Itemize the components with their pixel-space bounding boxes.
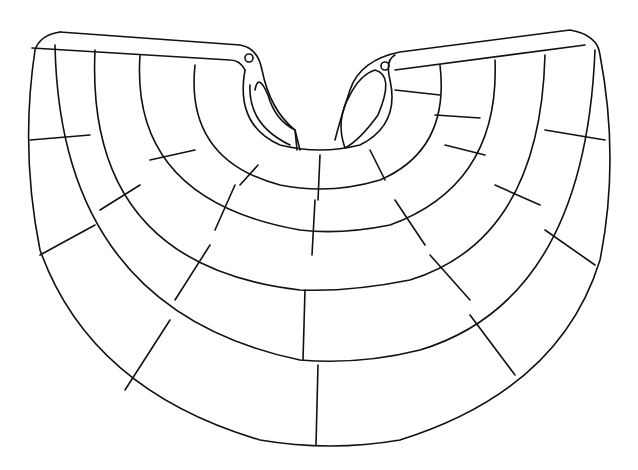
divider <box>40 225 95 255</box>
divider <box>303 290 305 360</box>
divider <box>175 245 210 300</box>
collar-svg <box>0 0 638 470</box>
divider <box>312 200 315 255</box>
terminal-hole-left <box>245 54 253 62</box>
collar-drawing <box>0 0 638 470</box>
divider <box>215 185 235 230</box>
divider <box>545 230 595 265</box>
divider <box>240 165 258 185</box>
divider <box>545 130 605 140</box>
divider <box>395 90 440 95</box>
divider <box>316 365 318 445</box>
divider <box>318 155 320 200</box>
row-4 <box>55 45 595 361</box>
divider <box>150 150 195 160</box>
divider <box>125 320 170 390</box>
neck-inner <box>250 85 290 145</box>
neck-curve <box>243 55 395 150</box>
hook-right <box>341 70 386 148</box>
hook-left <box>255 82 297 150</box>
divider <box>395 200 425 245</box>
top-band-inner-left <box>32 48 245 70</box>
divider <box>370 150 385 180</box>
divider <box>470 315 515 375</box>
divider <box>435 115 480 118</box>
divider <box>100 185 140 210</box>
outer-edge <box>29 30 610 446</box>
row-1 <box>194 65 441 189</box>
divider <box>30 135 90 140</box>
